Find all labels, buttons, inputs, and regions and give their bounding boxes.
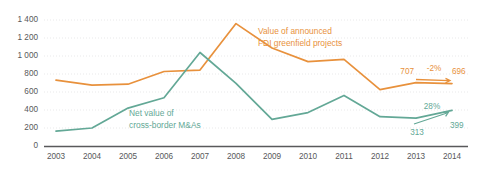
- y-tick-label: 1 400: [18, 15, 39, 24]
- x-tick-label: 2013: [407, 152, 426, 161]
- y-axis-tick-labels: 1 400 1 200 1 000 800 600 400 200 0: [18, 15, 39, 150]
- fdi-greenfield-vs-mna-line-chart: 1 400 1 200 1 000 800 600 400 200 0 2003…: [0, 0, 481, 182]
- x-tick-label: 2003: [47, 152, 66, 161]
- green-change-label: 28%: [424, 102, 440, 111]
- orange-change-annotation: 707 -2% 696: [400, 64, 466, 83]
- x-tick-label: 2012: [371, 152, 390, 161]
- green-start-value-label: 313: [410, 128, 424, 137]
- green-change-annotation: 28% 313 399: [410, 102, 464, 137]
- green-label-line1: Net value of: [129, 108, 174, 118]
- x-tick-label: 2007: [191, 152, 210, 161]
- green-label-line2: cross-border M&As: [129, 120, 201, 130]
- chart-svg: 1 400 1 200 1 000 800 600 400 200 0 2003…: [0, 0, 481, 182]
- orange-change-label: -2%: [427, 64, 442, 73]
- y-tick-label: 600: [24, 87, 38, 96]
- x-tick-label: 2008: [227, 152, 246, 161]
- x-tick-label: 2009: [263, 152, 282, 161]
- x-axis-tick-labels: 2003 2004 2005 2006 2007 2008 2009 2010 …: [47, 152, 462, 161]
- y-tick-label: 1 000: [18, 51, 39, 60]
- green-end-value-label: 399: [450, 121, 464, 130]
- series-line-fdi-greenfield: [56, 24, 452, 90]
- x-tick-label: 2006: [155, 152, 174, 161]
- y-tick-label: 400: [24, 105, 38, 114]
- x-tick-label: 2011: [335, 152, 353, 161]
- y-tick-label: 0: [33, 141, 38, 150]
- x-tick-label: 2004: [83, 152, 102, 161]
- orange-start-value-label: 707: [400, 67, 414, 76]
- x-tick-label: 2005: [119, 152, 138, 161]
- x-tick-label: 2010: [299, 152, 318, 161]
- y-tick-label: 800: [24, 69, 38, 78]
- green-series-label: Net value of cross-border M&As: [129, 108, 201, 130]
- orange-label-line2: FDI greenfield projects: [258, 38, 342, 48]
- orange-label-line1: Value of announced: [258, 26, 332, 36]
- orange-end-value-label: 696: [452, 67, 466, 76]
- y-tick-label: 200: [24, 123, 38, 132]
- orange-series-label: Value of announced FDI greenfield projec…: [258, 26, 342, 48]
- orange-trend-arrow: [416, 80, 449, 81]
- y-tick-label: 1 200: [18, 33, 39, 42]
- x-tick-label: 2014: [443, 152, 462, 161]
